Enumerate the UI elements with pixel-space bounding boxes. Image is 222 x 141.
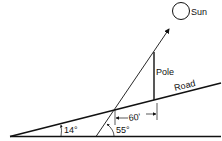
sun-pole-road-diagram: Sun Pole Road 60' 14° 55°	[0, 0, 222, 141]
road-angle-arc	[61, 125, 62, 136]
distance-label: 60'	[128, 112, 141, 123]
road-angle-label: 14°	[64, 125, 78, 135]
pole-label: Pole	[156, 67, 174, 77]
sun-label: Sun	[191, 7, 207, 17]
sun-angle-label: 55°	[116, 125, 130, 135]
sun-icon	[173, 3, 190, 20]
sun-angle-arc	[107, 124, 114, 136]
